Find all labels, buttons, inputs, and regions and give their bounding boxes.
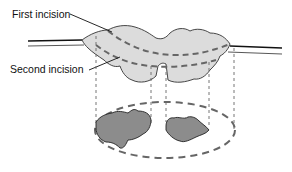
first-incision-leader (70, 14, 112, 32)
projected-defect-left (96, 110, 151, 149)
first-incision-label: First incision (12, 9, 70, 20)
projected-defect-right (166, 117, 209, 142)
second-incision-label: Second incision (10, 64, 84, 75)
incision-diagram (0, 0, 292, 172)
skin-surface-right (228, 46, 282, 54)
skin-surface-left (28, 40, 84, 46)
